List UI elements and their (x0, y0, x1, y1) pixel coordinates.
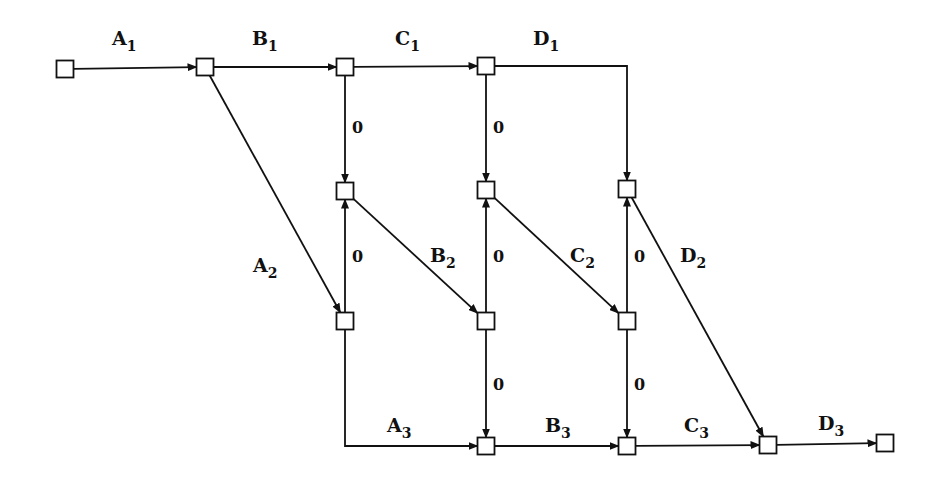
activity-label: A3 (386, 414, 412, 441)
event-node-n2 (337, 59, 354, 76)
activity-label: A2 (252, 254, 278, 281)
activity-label: C2 (570, 244, 595, 271)
activity-label: D2 (680, 244, 706, 271)
event-node-n0 (57, 61, 74, 78)
event-node-m3 (619, 181, 636, 198)
activity-label: A1 (111, 27, 137, 54)
event-node-b5 (877, 435, 894, 452)
dummy-label: 0 (634, 375, 645, 394)
activity-edge (777, 443, 877, 445)
activity-label: B3 (545, 414, 571, 441)
activity-edge (636, 445, 760, 446)
dummy-label: 0 (634, 247, 645, 266)
dummy-label: 0 (493, 375, 504, 394)
activity-edge (74, 67, 197, 69)
edges-layer (74, 66, 877, 446)
event-node-m1 (337, 183, 354, 200)
nodes-layer (57, 58, 894, 455)
dummy-label: 0 (352, 118, 363, 137)
activity-edge (354, 66, 478, 67)
dummy-label: 0 (493, 118, 504, 137)
event-node-b4 (760, 437, 777, 454)
dummy-label: 0 (352, 247, 363, 266)
activity-edge (354, 199, 478, 313)
activity-edge (495, 66, 628, 181)
event-node-b3 (619, 438, 636, 455)
activity-label: C1 (395, 27, 420, 54)
activity-label: B2 (430, 244, 456, 271)
activity-edge (632, 198, 764, 437)
labels-layer: A1B1C1D1A2B2C2D2A3B3C3D30000000 (111, 27, 844, 441)
activity-label: B1 (252, 27, 278, 54)
event-node-n1 (197, 59, 214, 76)
activity-edge (495, 198, 619, 313)
activity-label: C3 (684, 414, 709, 441)
event-node-l3 (619, 313, 636, 330)
activity-label: D1 (533, 27, 559, 54)
event-node-n3 (478, 58, 495, 75)
activity-network-diagram: A1B1C1D1A2B2C2D2A3B3C3D30000000 (0, 0, 941, 494)
dummy-label: 0 (493, 247, 504, 266)
event-node-b2 (478, 438, 495, 455)
event-node-l2 (478, 313, 495, 330)
activity-label: D3 (818, 412, 844, 439)
event-node-m2 (478, 182, 495, 199)
event-node-l1 (337, 313, 354, 330)
